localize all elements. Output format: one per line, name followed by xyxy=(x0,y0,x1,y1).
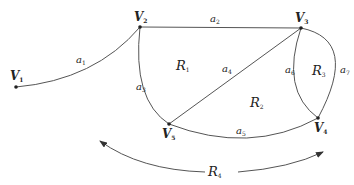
edge-label-a1: a1 xyxy=(76,55,86,66)
outer-region-arrow-left xyxy=(100,141,205,172)
region-label-r3: R3 xyxy=(312,64,326,78)
outer-region-arrow-right xyxy=(238,152,323,172)
vertex-label-v4: V4 xyxy=(314,122,328,135)
region-label-r2: R2 xyxy=(250,96,264,110)
edge-label-a7: a7 xyxy=(340,65,350,76)
edge-label-a5: a5 xyxy=(236,126,246,137)
vertex-v3 xyxy=(299,26,303,30)
graph-svg xyxy=(0,0,354,185)
edge-a4 xyxy=(169,28,301,124)
vertex-v4 xyxy=(316,116,320,120)
vertex-v1 xyxy=(14,85,18,89)
edge-label-a6: a6 xyxy=(285,65,295,76)
vertex-v5 xyxy=(167,122,171,126)
vertex-v2 xyxy=(138,25,142,29)
edge-a3 xyxy=(139,27,169,124)
edge-label-a4: a4 xyxy=(222,64,232,75)
edge-label-a2: a2 xyxy=(210,14,220,25)
vertex-label-v2: V2 xyxy=(134,11,148,24)
region-label-r1: R1 xyxy=(176,59,190,73)
vertex-label-v1: V1 xyxy=(10,70,24,83)
edge-a2 xyxy=(140,27,301,28)
vertex-label-v3: V3 xyxy=(295,12,309,25)
vertex-label-v5: V5 xyxy=(162,128,176,141)
region-label-r4: R4 xyxy=(208,165,222,179)
graph-diagram: V1 V2 V3 V4 V5 a1 a2 a3 a4 a5 a6 a7 R1 R… xyxy=(0,0,354,185)
edge-label-a3: a3 xyxy=(136,82,146,93)
